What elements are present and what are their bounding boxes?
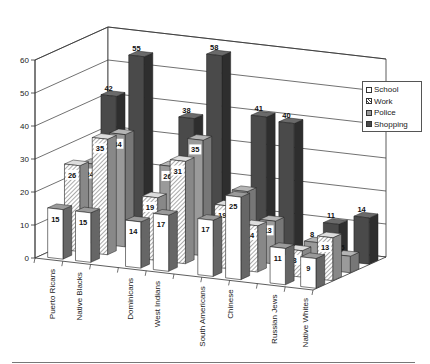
bar: 15 — [75, 207, 99, 262]
bar-side — [141, 218, 150, 268]
bar: 11 — [270, 243, 294, 285]
y-tick-label: 10 — [20, 221, 29, 230]
value-label: 17 — [201, 225, 209, 234]
x-tick — [256, 284, 257, 289]
x-category-label: Dominicans — [126, 278, 135, 320]
bar: 17 — [198, 215, 222, 277]
value-label: 41 — [255, 104, 263, 113]
value-label: 11 — [327, 211, 335, 220]
bottom-rule — [12, 362, 415, 363]
value-label: 15 — [79, 218, 87, 227]
bar-side — [316, 255, 325, 289]
x-category-label: Native Blacks — [75, 272, 84, 320]
x-tick — [145, 271, 146, 276]
value-label: 14 — [129, 227, 138, 236]
legend: School Work Police Shopping — [362, 81, 422, 132]
x-category-label: Native Whites — [301, 298, 310, 347]
value-label: 25 — [229, 202, 237, 211]
x-tick — [284, 287, 285, 292]
value-label: 35 — [96, 144, 104, 153]
x-tick — [62, 261, 63, 266]
y-tick-label: 0 — [25, 254, 30, 263]
y-tick-label: 50 — [20, 89, 29, 98]
x-tick — [229, 280, 230, 285]
value-label: 17 — [157, 220, 165, 229]
value-label: 14 — [357, 205, 366, 214]
x-tick — [90, 264, 91, 269]
legend-label: Shopping — [374, 120, 408, 129]
bar-side — [185, 157, 194, 263]
x-tick — [34, 258, 35, 263]
legend-item-work: Work — [366, 96, 418, 108]
bar-side — [91, 209, 100, 262]
bar-side — [369, 214, 378, 264]
value-label: 15 — [51, 215, 59, 224]
x-tick — [201, 277, 202, 282]
x-tick — [312, 290, 313, 295]
legend-item-police: Police — [366, 107, 418, 119]
bar-side — [63, 206, 72, 259]
value-label: 19 — [146, 203, 154, 212]
value-label: 38 — [182, 106, 190, 115]
bar-side — [333, 234, 342, 281]
bar-chart-3d: 0102030405060 Puerto RicansNative Blacks… — [0, 0, 430, 364]
bar: 15 — [48, 204, 72, 259]
bar-side — [285, 244, 294, 284]
legend-swatch-school — [366, 87, 372, 93]
legend-swatch-work — [366, 98, 372, 104]
bar: 9 — [301, 253, 325, 288]
legend-label: Work — [374, 97, 393, 106]
value-label: 55 — [132, 44, 140, 53]
bar-front — [270, 247, 285, 285]
x-tick — [117, 268, 118, 273]
bar-side — [169, 211, 178, 271]
bar: 25 — [226, 191, 250, 279]
bar: 17 — [153, 209, 177, 271]
value-label: 26 — [68, 171, 76, 180]
legend-label: School — [374, 85, 398, 94]
x-category-label: Chinese — [226, 289, 235, 319]
y-axis: 0102030405060 — [20, 56, 35, 263]
x-category-label: Russian Jews — [270, 295, 279, 344]
x-category-label: South Americans — [198, 286, 207, 346]
legend-swatch-shopping — [366, 121, 372, 127]
value-label: 58 — [210, 43, 218, 52]
y-tick-label: 40 — [20, 122, 29, 131]
y-tick-label: 30 — [20, 155, 29, 164]
value-label: 11 — [274, 254, 282, 263]
legend-item-school: School — [366, 84, 418, 96]
legend-label: Police — [374, 108, 396, 117]
x-category-label: Puerto Ricans — [48, 269, 57, 319]
value-label: 9 — [306, 264, 310, 273]
bar-side — [213, 216, 222, 276]
legend-item-shopping: Shopping — [366, 119, 418, 131]
bar-side — [241, 193, 250, 279]
x-category-label: West Indians — [153, 281, 162, 327]
bar-side — [108, 135, 117, 254]
legend-swatch-police — [366, 110, 372, 116]
value-label: 13 — [321, 243, 329, 252]
bar-side — [258, 222, 267, 272]
bar: 14 — [126, 216, 150, 268]
x-tick — [173, 274, 174, 279]
value-label: 40 — [282, 111, 290, 120]
value-label: 8 — [310, 230, 314, 239]
bar-side — [294, 120, 303, 256]
value-label: 35 — [191, 145, 199, 154]
y-tick-label: 60 — [20, 56, 29, 65]
y-tick-label: 20 — [20, 188, 29, 197]
value-label: 42 — [104, 84, 112, 93]
value-label: 31 — [174, 167, 182, 176]
